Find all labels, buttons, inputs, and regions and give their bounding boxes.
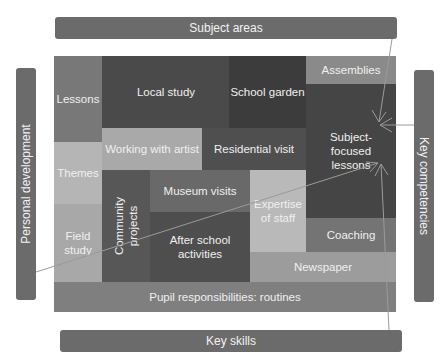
themes-label: Themes bbox=[57, 166, 99, 180]
block-school-garden: School garden bbox=[229, 56, 306, 128]
field-study-line1: Field bbox=[64, 229, 92, 243]
coaching-label: Coaching bbox=[327, 228, 376, 242]
subject-areas-label: Subject areas bbox=[189, 21, 262, 35]
block-subject-focused-lessons: Subject- focused lessons bbox=[306, 84, 396, 218]
personal-development-label: Personal development bbox=[19, 124, 33, 243]
community-projects-line1: Community bbox=[112, 197, 126, 255]
block-community-projects: Community projects bbox=[102, 170, 150, 282]
subject-focused-line3: lessons bbox=[330, 158, 372, 172]
community-projects-line2: projects bbox=[126, 197, 140, 255]
expertise-line1: Expertise bbox=[254, 197, 302, 211]
block-museum-visits: Museum visits bbox=[150, 170, 250, 212]
key-skills-label: Key skills bbox=[206, 334, 256, 348]
assemblies-label: Assemblies bbox=[322, 63, 381, 77]
block-themes: Themes bbox=[54, 142, 102, 204]
museum-visits-label: Museum visits bbox=[164, 184, 237, 198]
block-local-study: Local study bbox=[102, 56, 230, 128]
block-field-study: Field study bbox=[54, 204, 102, 282]
block-coaching: Coaching bbox=[306, 218, 396, 252]
field-study-line2: study bbox=[64, 243, 92, 257]
residential-visit-label: Residential visit bbox=[214, 142, 294, 156]
key-competencies-label: Key competencies bbox=[417, 137, 431, 235]
key-competencies-bar: Key competencies bbox=[414, 70, 434, 302]
lessons-label: Lessons bbox=[57, 92, 100, 106]
block-residential-visit: Residential visit bbox=[202, 128, 306, 170]
school-garden-label: School garden bbox=[230, 85, 304, 99]
block-lessons: Lessons bbox=[54, 56, 102, 142]
block-assemblies: Assemblies bbox=[306, 56, 396, 84]
subject-focused-line1: Subject- bbox=[330, 130, 372, 144]
personal-development-bar: Personal development bbox=[16, 68, 36, 300]
working-with-artist-label: Working with artist bbox=[105, 142, 199, 156]
subject-areas-bar: Subject areas bbox=[55, 17, 397, 39]
after-school-line1: After school bbox=[170, 233, 231, 247]
after-school-line2: activities bbox=[170, 247, 231, 261]
block-newspaper: Newspaper bbox=[250, 252, 396, 282]
block-working-with-artist: Working with artist bbox=[102, 128, 202, 170]
pupil-responsibilities-label: Pupil responsibilities: routines bbox=[149, 290, 301, 304]
subject-focused-line2: focused bbox=[330, 144, 372, 158]
block-after-school-activities: After school activities bbox=[150, 212, 250, 282]
block-pupil-responsibilities: Pupil responsibilities: routines bbox=[54, 282, 396, 312]
expertise-line2: of staff bbox=[254, 211, 302, 225]
block-expertise-of-staff: Expertise of staff bbox=[250, 170, 306, 252]
local-study-label: Local study bbox=[137, 85, 195, 99]
key-skills-bar: Key skills bbox=[60, 330, 402, 352]
newspaper-label: Newspaper bbox=[294, 260, 352, 274]
